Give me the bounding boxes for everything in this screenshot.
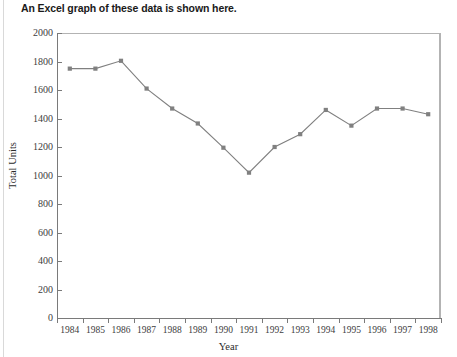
x-tick-label: 1998	[419, 325, 438, 336]
y-tick-label: 1200	[33, 142, 53, 152]
x-tick-mark	[339, 318, 340, 323]
y-tick-label-wrap: 0	[0, 313, 53, 323]
x-tick-label: 1994	[316, 325, 335, 336]
x-tick-mark	[185, 318, 186, 323]
x-tick-mark	[415, 318, 416, 323]
y-tick-label-wrap: 200	[0, 285, 53, 295]
x-tick-mark	[390, 318, 391, 323]
y-tick-label: 200	[38, 285, 53, 295]
x-tick-label: 1984	[60, 325, 79, 336]
x-tick-mark	[313, 318, 314, 323]
x-tick-label: 1993	[291, 325, 310, 336]
x-tick-mark	[236, 318, 237, 323]
y-tick-label-wrap: 1600	[0, 85, 53, 95]
x-tick-label: 1997	[393, 325, 412, 336]
x-tick-label: 1987	[137, 325, 156, 336]
x-tick-mark	[108, 318, 109, 323]
y-tick-label-wrap: 1800	[0, 57, 53, 67]
y-tick-mark	[57, 261, 62, 262]
y-tick-mark	[57, 147, 62, 148]
y-tick-mark	[57, 119, 62, 120]
y-tick-label: 2000	[33, 28, 53, 38]
x-tick-label: 1986	[112, 325, 131, 336]
x-tick-label: 1988	[163, 325, 182, 336]
y-tick-label: 1000	[33, 171, 53, 181]
y-tick-mark	[57, 33, 62, 34]
x-tick-mark	[83, 318, 84, 323]
x-tick-mark	[287, 318, 288, 323]
x-tick-mark	[134, 318, 135, 323]
x-tick-label: 1996	[368, 325, 387, 336]
x-tick-label: 1991	[240, 325, 259, 336]
x-tick-mark	[364, 318, 365, 323]
x-tick-mark	[159, 318, 160, 323]
x-tick-label: 1989	[188, 325, 207, 336]
y-tick-label: 0	[48, 313, 53, 323]
y-tick-mark	[57, 90, 62, 91]
y-tick-mark	[57, 62, 62, 63]
y-tick-label: 800	[38, 199, 53, 209]
y-tick-mark	[57, 176, 62, 177]
y-axis-title: Total Units	[7, 126, 18, 206]
y-tick-label-wrap: 1400	[0, 114, 53, 124]
x-tick-mark	[211, 318, 212, 323]
y-tick-mark	[57, 290, 62, 291]
x-axis-line	[57, 318, 442, 319]
x-tick-mark	[262, 318, 263, 323]
y-tick-mark	[57, 233, 62, 234]
y-tick-label: 1800	[33, 57, 53, 67]
x-tick-mark	[441, 318, 442, 323]
y-tick-label-wrap: 400	[0, 256, 53, 266]
x-tick-label: 1992	[265, 325, 284, 336]
x-tick-label: 1990	[214, 325, 233, 336]
y-tick-label: 1400	[33, 114, 53, 124]
plot-area-frame	[57, 33, 441, 318]
x-tick-label: 1985	[86, 325, 105, 336]
y-tick-label-wrap: 2000	[0, 28, 53, 38]
y-tick-mark	[57, 204, 62, 205]
y-tick-label: 1600	[33, 85, 53, 95]
y-tick-label: 600	[38, 228, 53, 238]
y-tick-label: 400	[38, 256, 53, 266]
line-chart-figure: 0200400600800100012001400160018002000 19…	[0, 0, 457, 357]
x-axis-title: Year	[0, 341, 457, 352]
x-tick-label: 1995	[342, 325, 361, 336]
y-tick-label-wrap: 600	[0, 228, 53, 238]
x-tick-mark	[57, 318, 58, 323]
